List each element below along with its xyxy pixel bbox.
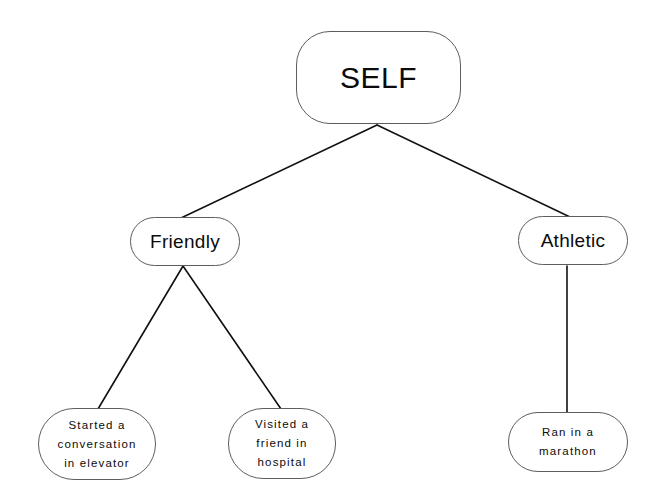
diagram-canvas: SELF Friendly Athletic Started a convers… <box>0 0 661 500</box>
node-athletic: Athletic <box>518 216 628 265</box>
node-friendly: Friendly <box>130 217 240 266</box>
edge-self-to-friendly <box>181 125 377 218</box>
node-started-conversation-label: Started a conversation in elevator <box>57 416 136 473</box>
node-ran-marathon-label: Ran in a marathon <box>539 423 597 461</box>
node-friendly-label: Friendly <box>150 231 220 253</box>
node-visited-friend: Visited a friend in hospital <box>228 408 336 479</box>
edge-friendly-to-visited-friend <box>183 266 281 409</box>
node-started-conversation: Started a conversation in elevator <box>38 408 156 480</box>
node-ran-marathon: Ran in a marathon <box>508 412 628 472</box>
node-self: SELF <box>296 31 461 124</box>
edge-friendly-to-started-conversation <box>98 266 183 409</box>
node-self-label: SELF <box>340 61 417 95</box>
node-visited-friend-label: Visited a friend in hospital <box>255 415 309 472</box>
node-athletic-label: Athletic <box>541 230 606 252</box>
edge-self-to-athletic <box>377 125 570 217</box>
